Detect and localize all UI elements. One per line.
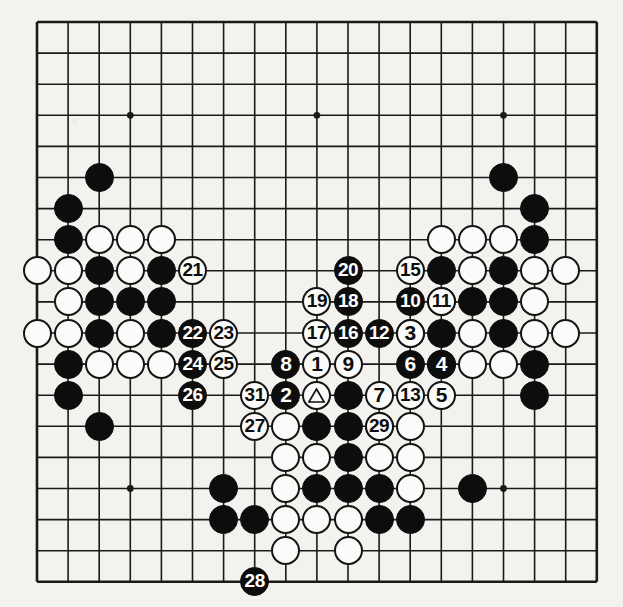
move-number-label: 10 [400, 291, 420, 310]
move-number-label: 29 [369, 416, 389, 435]
stone-black-11-16[interactable] [334, 474, 363, 503]
stone-black-2-13[interactable] [54, 381, 83, 410]
stone-black-5-11[interactable] [147, 319, 176, 348]
stone-white-4-11[interactable] [116, 319, 145, 348]
stone-black-14-11[interactable] [427, 319, 456, 348]
move-stone-27[interactable]: 27 [240, 412, 269, 441]
move-stone-2[interactable]: 2 [271, 381, 300, 410]
move-stone-8[interactable]: 8 [271, 350, 300, 379]
stone-white-13-16[interactable] [396, 474, 425, 503]
move-stone-17[interactable]: 17 [302, 319, 331, 348]
stone-white-2-11[interactable] [54, 319, 83, 348]
move-number-label: 4 [436, 353, 447, 374]
go-diagram-container: 1234567891011121315161718192021222324252… [0, 0, 623, 607]
triangle-mark-icon [308, 388, 325, 403]
stone-black-3-14[interactable] [85, 412, 114, 441]
move-stone-29[interactable]: 29 [365, 412, 394, 441]
move-stone-10[interactable]: 10 [396, 287, 425, 316]
stone-white-2-10[interactable] [54, 287, 83, 316]
stone-marked-triangle[interactable] [302, 381, 331, 410]
stone-black-13-17[interactable] [396, 505, 425, 534]
stone-black-7-17[interactable] [209, 505, 238, 534]
stone-white-9-15[interactable] [271, 443, 300, 472]
stone-black-14-9[interactable] [427, 256, 456, 285]
move-number-label: 3 [405, 322, 416, 343]
move-stone-13[interactable]: 13 [396, 381, 425, 410]
stone-white-11-17[interactable] [334, 505, 363, 534]
stone-black-16-11[interactable] [489, 319, 518, 348]
stone-white-16-8[interactable] [489, 225, 518, 254]
stone-white-5-12[interactable] [147, 350, 176, 379]
move-stone-11[interactable]: 11 [427, 287, 456, 316]
stone-white-4-9[interactable] [116, 256, 145, 285]
stone-black-17-13[interactable] [520, 381, 549, 410]
stone-white-9-14[interactable] [271, 412, 300, 441]
stone-white-11-18[interactable] [334, 536, 363, 565]
move-number-label: 26 [182, 385, 202, 404]
move-stone-22[interactable]: 22 [178, 319, 207, 348]
move-stone-4[interactable]: 4 [427, 350, 456, 379]
move-number-label: 18 [338, 291, 358, 310]
stone-black-4-10[interactable] [116, 287, 145, 316]
stone-white-3-8[interactable] [85, 225, 114, 254]
stone-black-11-15[interactable] [334, 443, 363, 472]
stone-black-3-11[interactable] [85, 319, 114, 348]
stone-black-5-9[interactable] [147, 256, 176, 285]
stone-white-4-8[interactable] [116, 225, 145, 254]
stone-white-5-8[interactable] [147, 225, 176, 254]
move-number-label: 16 [338, 323, 358, 342]
stone-white-14-8[interactable] [427, 225, 456, 254]
stone-white-2-9[interactable] [54, 256, 83, 285]
move-stone-23[interactable]: 23 [209, 319, 238, 348]
stone-white-17-11[interactable] [520, 319, 549, 348]
stone-black-16-6[interactable] [489, 163, 518, 192]
stone-black-17-12[interactable] [520, 350, 549, 379]
stone-black-3-6[interactable] [85, 163, 114, 192]
move-stone-15[interactable]: 15 [396, 256, 425, 285]
stone-black-2-8[interactable] [54, 225, 83, 254]
move-stone-18[interactable]: 18 [334, 287, 363, 316]
move-stone-3[interactable]: 3 [396, 319, 425, 348]
stone-white-3-12[interactable] [85, 350, 114, 379]
move-stone-25[interactable]: 25 [209, 350, 238, 379]
move-stone-7[interactable]: 7 [365, 381, 394, 410]
stone-white-18-11[interactable] [551, 319, 580, 348]
move-number-label: 25 [214, 354, 234, 373]
move-stone-16[interactable]: 16 [334, 319, 363, 348]
move-number-label: 2 [280, 384, 291, 405]
stone-white-4-12[interactable] [116, 350, 145, 379]
move-stone-24[interactable]: 24 [178, 350, 207, 379]
stone-black-17-7[interactable] [520, 194, 549, 223]
stone-white-15-9[interactable] [458, 256, 487, 285]
stone-black-2-12[interactable] [54, 350, 83, 379]
stone-white-1-9[interactable] [23, 256, 52, 285]
stone-black-2-7[interactable] [54, 194, 83, 223]
stone-white-1-11[interactable] [23, 319, 52, 348]
move-stone-12[interactable]: 12 [365, 319, 394, 348]
stone-black-11-13[interactable] [334, 381, 363, 410]
stone-white-15-12[interactable] [458, 350, 487, 379]
stone-black-7-16[interactable] [209, 474, 238, 503]
stone-black-12-16[interactable] [365, 474, 394, 503]
move-stone-26[interactable]: 26 [178, 381, 207, 410]
stone-black-10-14[interactable] [302, 412, 331, 441]
stone-white-13-14[interactable] [396, 412, 425, 441]
move-stone-31[interactable]: 31 [240, 381, 269, 410]
stone-white-16-12[interactable] [489, 350, 518, 379]
stone-white-12-15[interactable] [365, 443, 394, 472]
move-stone-1[interactable]: 1 [302, 350, 331, 379]
move-stone-20[interactable]: 20 [334, 256, 363, 285]
stone-white-15-8[interactable] [458, 225, 487, 254]
move-number-label: 12 [369, 323, 389, 342]
stone-black-3-10[interactable] [85, 287, 114, 316]
stone-black-12-17[interactable] [365, 505, 394, 534]
star-point [314, 112, 321, 119]
stone-white-13-15[interactable] [396, 443, 425, 472]
stone-black-15-16[interactable] [458, 474, 487, 503]
move-stone-5[interactable]: 5 [427, 381, 456, 410]
move-stone-6[interactable]: 6 [396, 350, 425, 379]
move-stone-9[interactable]: 9 [334, 350, 363, 379]
stone-white-15-11[interactable] [458, 319, 487, 348]
stone-black-3-9[interactable] [85, 256, 114, 285]
stone-black-11-14[interactable] [334, 412, 363, 441]
